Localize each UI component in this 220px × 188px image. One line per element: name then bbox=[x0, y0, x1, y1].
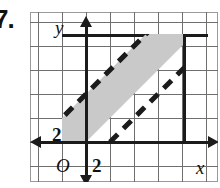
problem-number: 7. bbox=[0, 6, 14, 32]
x-axis-left-arrow-icon bbox=[30, 136, 41, 148]
origin-label: O bbox=[56, 156, 70, 175]
y-axis-label: y bbox=[55, 18, 63, 37]
x-axis-tick-label-2: 2 bbox=[92, 156, 102, 175]
x-axis-right-arrow-icon bbox=[208, 136, 218, 148]
y-axis-tick-label-2: 2 bbox=[52, 125, 62, 144]
x-axis-label: x bbox=[196, 158, 204, 177]
y-axis bbox=[85, 26, 88, 178]
y-axis-up-arrow-icon bbox=[80, 16, 92, 27]
y-axis-down-arrow-icon bbox=[80, 175, 92, 182]
coordinate-grid-figure: y x O 2 2 bbox=[30, 12, 218, 182]
